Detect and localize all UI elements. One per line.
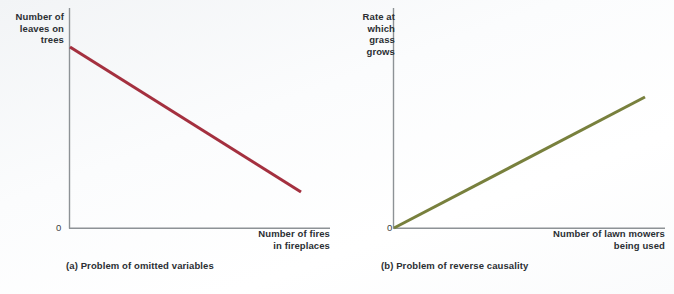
origin-label-b: 0 [387,222,392,233]
origin-label-a: 0 [56,222,61,233]
panel-caption-a: (a) Problem of omitted variables [66,260,214,271]
panel-reverse-causality: Rate at which grass grows Number of lawn… [337,0,674,294]
y-axis-label-b: Rate at which grass grows [341,11,395,57]
figure-container: Number of leaves on trees Number of fire… [0,0,674,294]
data-line-a [70,47,301,192]
x-axis-label-b: Number of lawn mowers being used [537,228,665,251]
data-line-b [394,97,645,228]
panel-caption-b: (b) Problem of reverse causality [381,260,528,271]
x-axis-label-a: Number of fires in fireplaces [226,228,330,251]
y-axis-label-a: Number of leaves on trees [2,11,64,46]
panel-omitted-variables: Number of leaves on trees Number of fire… [0,0,337,294]
